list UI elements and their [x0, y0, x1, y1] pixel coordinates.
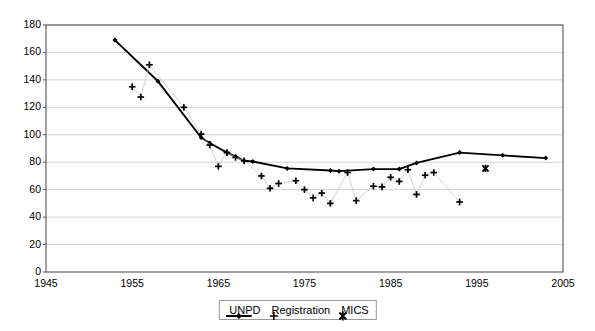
x-axis-tick-label: 2005 — [541, 278, 585, 289]
y-axis-tick-label: 60 — [8, 184, 41, 195]
data-point-unpd — [285, 166, 290, 171]
x-axis-tick-label: 1975 — [283, 278, 327, 289]
data-point-unpd — [328, 168, 333, 173]
x-axis-tick-label: 1945 — [24, 278, 68, 289]
y-axis-tick-label: 40 — [8, 211, 41, 222]
data-point-registration — [267, 185, 274, 192]
data-point-registration — [396, 178, 403, 185]
y-axis-tick-label: 20 — [8, 239, 41, 250]
x-axis-tick-label: 1995 — [455, 278, 499, 289]
x-axis-tick-label: 1985 — [369, 278, 413, 289]
data-point-registration — [206, 142, 213, 149]
data-point-registration — [275, 180, 282, 187]
y-axis-tick-label: 80 — [8, 156, 41, 167]
data-point-registration — [181, 104, 188, 111]
y-axis-tick-label: 0 — [8, 266, 41, 277]
data-point-unpd — [414, 160, 419, 165]
data-point-registration — [215, 163, 222, 170]
data-point-registration — [198, 131, 205, 138]
data-point-registration — [422, 172, 429, 179]
data-point-unpd — [457, 150, 462, 155]
data-point-unpd — [543, 156, 548, 161]
chart-legend: UNPDRegistrationMICS — [218, 300, 376, 320]
y-axis-tick-label: 120 — [8, 101, 41, 112]
data-point-unpd — [371, 167, 376, 172]
y-axis-tick-label: 160 — [8, 46, 41, 57]
x-axis-tick-label: 1965 — [196, 278, 240, 289]
x-axis-tick-label: 1955 — [110, 278, 154, 289]
chart-container: 180160140120100806040200 194519551965197… — [0, 0, 595, 331]
y-axis-tick-label: 100 — [8, 129, 41, 140]
data-point-unpd — [250, 159, 255, 164]
series-line-unpd — [115, 40, 546, 171]
legend-item-label: Registration — [271, 304, 330, 316]
data-point-registration — [413, 191, 420, 198]
legend-item-mics[interactable]: MICS — [337, 304, 369, 316]
data-point-unpd — [397, 167, 402, 172]
plot-border — [46, 25, 563, 272]
data-point-unpd — [500, 153, 505, 158]
data-point-mics — [482, 165, 488, 172]
legend-item-registration[interactable]: Registration — [267, 304, 330, 316]
y-axis-tick-label: 180 — [8, 19, 41, 30]
data-point-unpd — [336, 169, 341, 174]
legend-item-unpd[interactable]: UNPD — [225, 304, 260, 316]
y-axis-tick-label: 140 — [8, 74, 41, 85]
